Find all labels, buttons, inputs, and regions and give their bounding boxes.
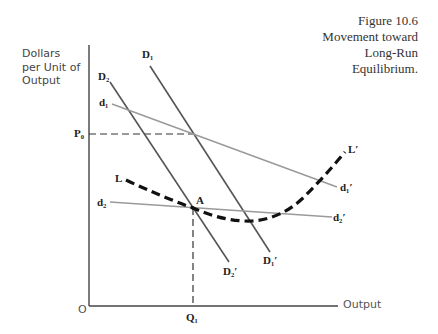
origin-label: O [78, 303, 87, 316]
caption-title-line-1: Movement toward [322, 29, 418, 45]
p0-label: P₀ [74, 127, 84, 139]
x-axis-label: Output [343, 298, 381, 311]
figure-caption: Figure 10.6 Movement toward Long-Run Equ… [322, 13, 418, 77]
point-a-marker [191, 206, 195, 210]
demand-curve-d1-upper [150, 66, 270, 252]
caption-title-line-3: Equilibrium. [322, 61, 418, 77]
d1-prime-curve-label: D₁′ [263, 254, 277, 266]
figure-10-6: Figure 10.6 Movement toward Long-Run Equ… [0, 0, 438, 334]
caption-figure-number: Figure 10.6 [322, 13, 418, 29]
d2-curve-label: D₂ [98, 70, 109, 82]
point-a-label: A [196, 194, 204, 206]
y-axis-label-line-2: per Unit of [22, 61, 80, 75]
small-d2-curve-label: d₂ [97, 196, 106, 208]
caption-title-line-2: Long-Run [322, 45, 418, 61]
small-d1-prime-curve-label: d₁′ [340, 181, 353, 193]
y-axis-label-line-3: Output [22, 74, 80, 88]
demand-curve-d2-lower [110, 202, 332, 217]
y-axis-label-line-1: Dollars [22, 47, 80, 61]
l-prime-curve-label: L′ [348, 143, 358, 155]
small-d2-prime-curve-label: d₂′ [333, 211, 346, 223]
y-axis-label: Dollars per Unit of Output [22, 47, 80, 88]
d1-curve-label: D₁ [142, 48, 153, 60]
q1-label: Q₁ [186, 311, 198, 323]
l-curve-label: L [115, 172, 122, 184]
d2-prime-curve-label: D₂′ [223, 265, 237, 277]
demand-curve-d1-lower [112, 104, 337, 187]
small-d1-curve-label: d₁ [99, 96, 108, 108]
